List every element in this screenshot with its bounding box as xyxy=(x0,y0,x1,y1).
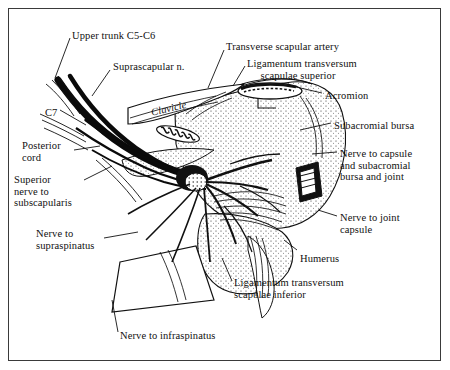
label-c7: C7 xyxy=(45,107,57,119)
label-nerve-supraspinatus: Nerve to supraspinatus xyxy=(36,228,94,251)
leader-transverse-artery xyxy=(208,50,224,88)
label-acromion: Acromion xyxy=(325,90,368,102)
label-subacromial-bursa: Subacromial bursa xyxy=(334,120,414,132)
label-nerve-infraspinatus: Nerve to infraspinatus xyxy=(120,330,216,342)
label-lig-trans-sup: Ligamentum transversum scapulae superior xyxy=(247,58,357,81)
label-transverse-artery: Transverse scapular artery xyxy=(226,41,339,53)
label-upper-trunk: Upper trunk C5-C6 xyxy=(72,30,155,42)
leader-lig-sup xyxy=(233,66,245,86)
label-humerus: Humerus xyxy=(300,253,339,265)
joint-capsule-detail xyxy=(296,162,322,202)
label-lig-trans-inf: Ligamentum transversum scapulae inferior xyxy=(234,277,344,300)
leader-suprascapular xyxy=(92,70,110,96)
label-suprascapular-n: Suprascapular n. xyxy=(113,61,185,73)
label-nerve-capsule-bursa: Nerve to capsule and subacromial bursa a… xyxy=(340,148,412,183)
leader-upper-trunk xyxy=(55,38,70,78)
label-nerve-joint-capsule: Nerve to joint capsule xyxy=(340,212,400,235)
label-posterior-cord: Posterior cord xyxy=(22,140,61,163)
anatomical-figure: Upper trunk C5-C6Suprascapular n.Transve… xyxy=(0,0,450,370)
leader-supraspinatus xyxy=(104,232,138,238)
label-superior-nerve-subscap: Superior nerve to subscapularis xyxy=(14,174,72,209)
leader-nerve-joint xyxy=(318,210,337,216)
leader-sup-subscap xyxy=(84,166,112,180)
